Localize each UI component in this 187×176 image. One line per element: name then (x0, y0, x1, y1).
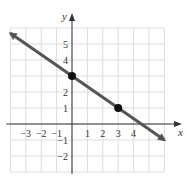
y-axis-arrow-icon (69, 13, 75, 21)
y-tick-label: −1 (57, 135, 68, 146)
data-point (114, 104, 122, 112)
x-tick-label: 3 (116, 128, 121, 139)
data-point (68, 72, 76, 80)
y-tick-label: −2 (57, 151, 68, 162)
tick-labels: −3−2−11234−2−11245 (20, 39, 136, 162)
x-tick-label: 2 (100, 128, 105, 139)
x-tick-label: 4 (131, 128, 136, 139)
y-tick-label: 4 (63, 55, 68, 66)
y-axis-label: y (61, 10, 67, 22)
axes (6, 13, 182, 174)
line-graph: −3−2−11234−2−11245 x y (0, 0, 187, 176)
y-tick-label: 5 (63, 39, 68, 50)
x-tick-label: −3 (20, 128, 31, 139)
x-tick-label: 1 (85, 128, 90, 139)
x-axis-label: x (177, 126, 183, 138)
x-tick-label: −2 (36, 128, 47, 139)
y-tick-label: 1 (63, 103, 68, 114)
y-tick-label: 2 (63, 87, 68, 98)
